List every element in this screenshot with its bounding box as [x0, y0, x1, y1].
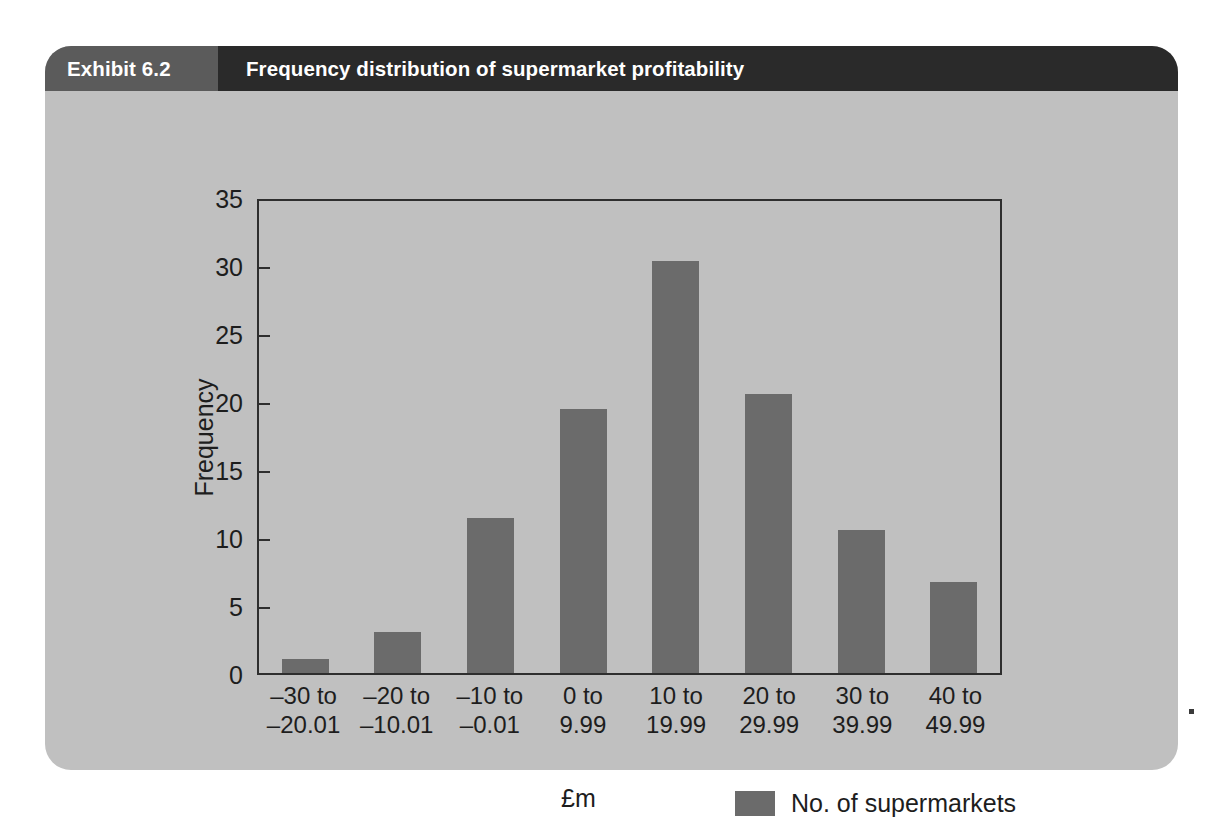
x-axis-title: £m	[561, 784, 596, 813]
y-axis-tick-label: 15	[215, 457, 243, 486]
bar-slot	[352, 201, 445, 673]
bar-slot	[630, 201, 723, 673]
bar-slot	[722, 201, 815, 673]
exhibit-number-label: Exhibit 6.2	[67, 57, 171, 81]
bar-slot	[259, 201, 352, 673]
plot-area	[257, 199, 1002, 675]
bar	[745, 394, 792, 673]
x-axis-tick-label: –30 to–20.01	[257, 681, 350, 740]
y-axis-tick-label: 25	[215, 321, 243, 350]
legend-swatch-no-of-supermarkets	[735, 791, 775, 816]
bars-container	[259, 201, 1000, 673]
x-axis-tick-label: 40 to49.99	[909, 681, 1002, 740]
bar	[560, 409, 607, 673]
x-axis: –30 to–20.01–20 to–10.01–10 to–0.010 to9…	[257, 681, 1002, 740]
bar	[838, 530, 885, 673]
bar-chart: Frequency 05101520253035 –30 to–20.01–20…	[45, 91, 1178, 770]
exhibit-card: Exhibit 6.2 Frequency distribution of su…	[45, 46, 1178, 770]
x-axis-tick-label: –10 to–0.01	[443, 681, 536, 740]
bar-slot	[907, 201, 1000, 673]
y-axis-tick-label: 30	[215, 253, 243, 282]
y-axis-tick-label: 10	[215, 525, 243, 554]
exhibit-header: Exhibit 6.2 Frequency distribution of su…	[45, 46, 1178, 91]
bar	[282, 659, 329, 673]
x-axis-tick-label: 10 to19.99	[630, 681, 723, 740]
y-axis-title-label: Frequency	[190, 378, 219, 496]
exhibit-title-band: Frequency distribution of supermarket pr…	[218, 46, 1178, 91]
bar	[930, 582, 977, 673]
bar-slot	[444, 201, 537, 673]
exhibit-title: Frequency distribution of supermarket pr…	[246, 57, 744, 81]
x-axis-tick-label: 0 to9.99	[536, 681, 629, 740]
exhibit-number-band: Exhibit 6.2	[45, 46, 218, 91]
bar-slot	[537, 201, 630, 673]
chart-legend: No. of supermarkets	[735, 789, 1016, 818]
y-axis-tick-label: 35	[215, 185, 243, 214]
bar	[652, 261, 699, 673]
bar-slot	[815, 201, 908, 673]
legend-label-no-of-supermarkets: No. of supermarkets	[791, 789, 1016, 818]
bar	[467, 518, 514, 673]
x-axis-title-label: £m	[561, 784, 596, 812]
y-axis-tick-label: 20	[215, 389, 243, 418]
scan-artifact-speck	[1189, 709, 1194, 714]
x-axis-tick-label: –20 to–10.01	[350, 681, 443, 740]
x-axis-tick-label: 20 to29.99	[723, 681, 816, 740]
y-axis-tick-label: 0	[229, 661, 243, 690]
x-axis-tick-label: 30 to39.99	[816, 681, 909, 740]
y-axis-tick-label: 5	[229, 593, 243, 622]
bar	[374, 632, 421, 673]
